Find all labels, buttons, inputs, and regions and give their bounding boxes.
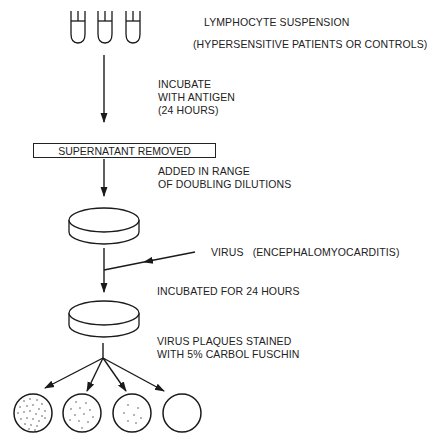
culture-dish-icon bbox=[69, 301, 139, 337]
flow-diagram bbox=[0, 0, 447, 445]
incubate-label-line3: (24 HOURS) bbox=[158, 104, 219, 118]
plate-high-plaques-icon bbox=[14, 394, 52, 432]
incubated-24h-label: INCUBATED FOR 24 HOURS bbox=[157, 285, 300, 299]
incubate-label-line1: INCUBATE bbox=[158, 78, 211, 92]
test-tube-icon bbox=[71, 11, 85, 43]
branch-arrows bbox=[45, 358, 164, 391]
virus-label: VIRUS (ENCEPHALOMYOCARDITIS) bbox=[211, 246, 400, 260]
supernatant-removed-box: SUPERNATANT REMOVED bbox=[33, 143, 216, 158]
plate-low-plaques-icon bbox=[113, 394, 151, 432]
plate-medium-plaques-icon bbox=[63, 394, 101, 432]
subjects-label: (HYPERSENSITIVE PATIENTS OR CONTROLS) bbox=[193, 38, 427, 52]
culture-dish-icon bbox=[69, 208, 139, 244]
plaques-stained-label-line1: VIRUS PLAQUES STAINED bbox=[157, 335, 291, 349]
test-tube-icon bbox=[98, 11, 112, 43]
added-range-label-line1: ADDED IN RANGE bbox=[158, 165, 250, 179]
test-tube-icon bbox=[126, 11, 140, 43]
virus-input-arrow bbox=[144, 252, 195, 262]
incubate-label-line2: WITH ANTIGEN bbox=[158, 91, 235, 105]
virus-input-line bbox=[104, 262, 144, 270]
lymphocyte-suspension-label: LYMPHOCYTE SUSPENSION bbox=[204, 16, 349, 30]
added-range-label-line2: OF DOUBLING DILUTIONS bbox=[158, 178, 291, 192]
plate-no-plaques-icon bbox=[163, 394, 201, 432]
test-tube-icons bbox=[71, 11, 140, 43]
plaques-stained-label-line2: WITH 5% CARBOL FUSCHIN bbox=[157, 348, 299, 362]
result-plates bbox=[14, 394, 201, 432]
